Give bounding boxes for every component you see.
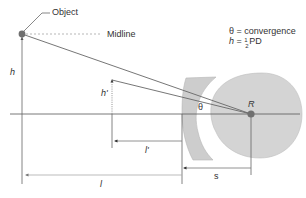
l-prime-label: l' [145, 146, 149, 155]
legend: θ = convergence h = 12PD [229, 26, 296, 46]
ray-object-to-R [22, 34, 251, 114]
fraction-denominator: 2 [245, 41, 248, 51]
object-leader-line [23, 13, 50, 32]
legend-pd: PD [249, 36, 262, 46]
legend-convergence: θ = convergence [229, 26, 296, 36]
eye-globe [211, 73, 302, 158]
s-arrowhead [183, 167, 187, 170]
midline-label: Midline [107, 30, 136, 39]
theta-label: θ [198, 103, 203, 112]
h-label: h [10, 68, 15, 77]
spectacle-lens [182, 77, 216, 160]
l-label: l [100, 180, 102, 189]
object-dot [19, 31, 26, 38]
legend-fraction: 12 [244, 36, 249, 46]
legend-eq: = [234, 36, 244, 46]
object-label: Object [52, 8, 78, 17]
h-arrowhead [21, 37, 24, 40]
legend-half-pd: h = 12PD [229, 36, 296, 46]
s-label: s [214, 172, 219, 181]
R-dot [247, 110, 254, 117]
h-prime-label: h' [101, 89, 108, 98]
h-prime-arrowhead [111, 79, 114, 83]
R-label: R [248, 100, 255, 109]
l-arrowhead [25, 174, 29, 177]
l-prime-arrowhead [114, 140, 118, 143]
